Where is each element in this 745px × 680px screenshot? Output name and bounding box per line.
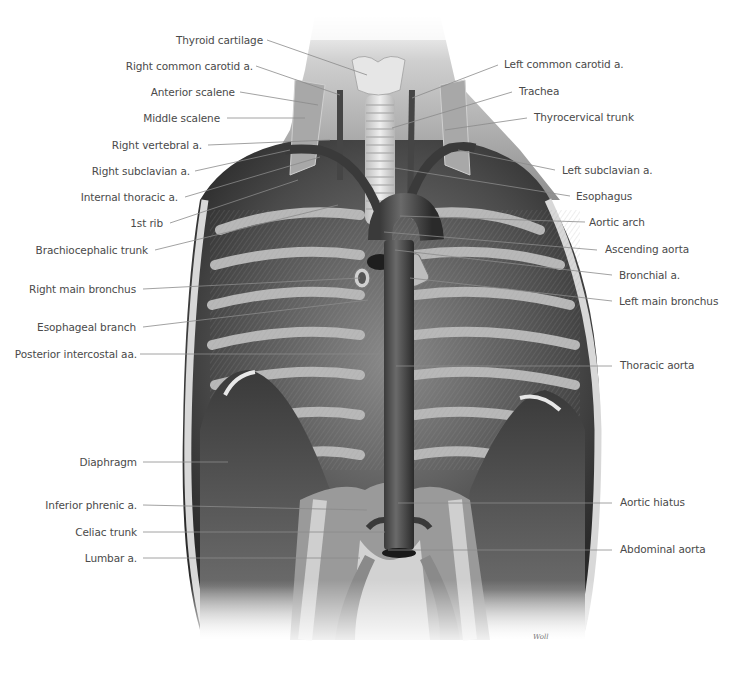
thyroid-cartilage-shape <box>352 56 405 95</box>
label-internal-thoracic: Internal thoracic a. <box>81 191 178 204</box>
anatomy-figure: Thyroid cartilage Right common carotid a… <box>0 0 745 680</box>
label-ascending-aorta: Ascending aorta <box>605 243 689 256</box>
label-right-main-bronchus: Right main bronchus <box>29 283 136 296</box>
label-left-subclavian: Left subclavian a. <box>562 164 653 177</box>
artist-signature: Woll <box>533 633 548 641</box>
label-anterior-scalene: Anterior scalene <box>151 86 235 99</box>
label-brachiocephalic-trunk: Brachiocephalic trunk <box>36 244 148 257</box>
label-first-rib: 1st rib <box>130 217 163 230</box>
label-esophagus: Esophagus <box>576 190 632 203</box>
label-left-main-bronchus: Left main bronchus <box>619 295 718 308</box>
label-lumbar: Lumbar a. <box>85 552 137 565</box>
label-diaphragm: Diaphragm <box>79 456 137 469</box>
left-scalenes <box>440 80 470 175</box>
label-middle-scalene: Middle scalene <box>143 112 220 125</box>
anatomy-illustration <box>0 0 745 680</box>
label-thyrocervical-trunk: Thyrocervical trunk <box>534 111 634 124</box>
label-right-subclavian: Right subclavian a. <box>92 165 190 178</box>
label-trachea: Trachea <box>519 85 559 98</box>
label-esophageal-branch: Esophageal branch <box>37 321 136 334</box>
label-bronchial: Bronchial a. <box>619 269 680 282</box>
label-aortic-arch: Aortic arch <box>589 216 645 229</box>
label-thoracic-aorta: Thoracic aorta <box>620 359 694 372</box>
descending-aorta-shape <box>384 240 414 550</box>
label-inferior-phrenic: Inferior phrenic a. <box>45 499 137 512</box>
label-posterior-intercostal: Posterior intercostal aa. <box>15 348 137 361</box>
label-right-common-carotid: Right common carotid a. <box>126 60 253 73</box>
label-thyroid-cartilage: Thyroid cartilage <box>176 34 263 47</box>
label-right-vertebral: Right vertebral a. <box>112 139 202 152</box>
label-left-common-carotid: Left common carotid a. <box>504 58 624 71</box>
label-abdominal-aorta: Abdominal aorta <box>620 543 706 556</box>
label-celiac-trunk: Celiac trunk <box>75 526 137 539</box>
label-aortic-hiatus: Aortic hiatus <box>620 496 685 509</box>
abdominal-aorta-cut <box>382 548 416 558</box>
